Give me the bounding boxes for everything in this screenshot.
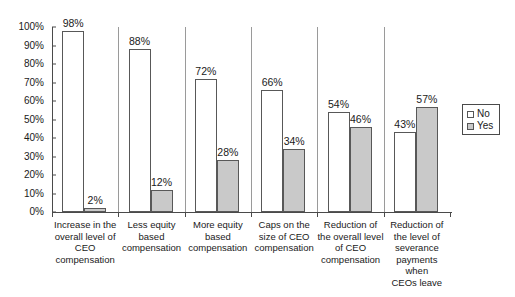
category-label-line: Caps on the xyxy=(251,219,317,231)
data-label-no-2: 72% xyxy=(195,66,216,77)
bar-yes-1 xyxy=(151,190,173,212)
y-tick-label: 80% xyxy=(0,59,44,69)
category-label-line: Less equity xyxy=(118,219,184,231)
y-tick-label: 40% xyxy=(0,133,44,143)
category-label-line: Reduction of xyxy=(317,219,383,231)
y-tick-label: 20% xyxy=(0,170,44,180)
y-tick-label: 10% xyxy=(0,189,44,199)
category-label-line: severance xyxy=(384,242,450,254)
category-label-4: Reduction ofthe overall levelof CEOcompe… xyxy=(317,219,383,265)
bar-yes-4 xyxy=(350,127,372,212)
category-label-5: Reduction ofthe level ofseverancepayment… xyxy=(384,219,450,289)
category-label-1: Less equitybasedcompensation xyxy=(118,219,184,254)
bar-yes-5 xyxy=(416,107,438,212)
x-tick-mark xyxy=(450,212,451,217)
category-label-line: compensation xyxy=(317,254,383,266)
category-label-line: compensation xyxy=(185,242,251,254)
data-label-no-3: 66% xyxy=(262,77,283,88)
category-label-line: Reduction of xyxy=(384,219,450,231)
category-label-2: More equitybasedcompensation xyxy=(185,219,251,254)
bar-no-1 xyxy=(129,49,151,212)
x-tick-mark xyxy=(384,212,385,217)
category-label-line: based xyxy=(185,231,251,243)
data-label-no-0: 98% xyxy=(63,18,84,29)
x-tick-mark xyxy=(317,212,318,217)
group-separator xyxy=(185,27,186,212)
y-tick-label: 60% xyxy=(0,96,44,106)
data-label-yes-5: 57% xyxy=(416,94,437,105)
x-tick-mark xyxy=(185,212,186,217)
bar-yes-0 xyxy=(84,208,106,212)
bar-yes-3 xyxy=(283,149,305,212)
x-tick-mark xyxy=(251,212,252,217)
legend-swatch-icon xyxy=(467,111,474,118)
data-label-no-1: 88% xyxy=(129,36,150,47)
bar-chart: 0%10%20%30%40%50%60%70%80%90%100% 98%2%8… xyxy=(0,0,515,297)
category-label-line: compensation xyxy=(251,242,317,254)
category-label-line: compensation xyxy=(52,254,118,266)
category-label-3: Caps on thesize of CEOcompensation xyxy=(251,219,317,254)
category-label-line: overall level of xyxy=(52,231,118,243)
category-label-line: Increase in the xyxy=(52,219,118,231)
category-label-line: the level of xyxy=(384,231,450,243)
y-tick-label: 70% xyxy=(0,78,44,88)
legend-label: No xyxy=(477,109,490,119)
x-tick-mark xyxy=(118,212,119,217)
bar-no-2 xyxy=(195,79,217,212)
category-label-line: the overall level xyxy=(317,231,383,243)
category-label-line: payments when xyxy=(384,254,450,277)
category-label-line: based xyxy=(118,231,184,243)
data-label-yes-0: 2% xyxy=(88,195,103,206)
y-tick-label: 0% xyxy=(0,207,44,217)
group-separator xyxy=(118,27,119,212)
bar-no-0 xyxy=(62,31,84,212)
bar-yes-2 xyxy=(217,160,239,212)
category-label-line: More equity xyxy=(185,219,251,231)
y-tick-label: 90% xyxy=(0,41,44,51)
plot-area: 98%2%88%12%72%28%66%34%54%46%43%57% xyxy=(52,27,450,212)
group-separator xyxy=(251,27,252,212)
data-label-no-4: 54% xyxy=(328,99,349,110)
group-separator xyxy=(384,27,385,212)
group-separator xyxy=(317,27,318,212)
bar-no-3 xyxy=(261,90,283,212)
category-label-line: size of CEO xyxy=(251,231,317,243)
legend-swatch-icon xyxy=(467,123,474,130)
y-tick-label: 30% xyxy=(0,152,44,162)
x-axis-line xyxy=(52,212,452,213)
data-label-no-5: 43% xyxy=(394,119,415,130)
category-label-0: Increase in theoverall level ofCEOcompen… xyxy=(52,219,118,265)
legend-item-yes: Yes xyxy=(467,120,496,132)
category-label-line: CEOs leave xyxy=(384,277,450,289)
data-label-yes-2: 28% xyxy=(217,147,238,158)
data-label-yes-4: 46% xyxy=(350,114,371,125)
bar-no-4 xyxy=(328,112,350,212)
legend: NoYes xyxy=(462,104,500,135)
data-label-yes-1: 12% xyxy=(151,177,172,188)
category-label-line: of CEO xyxy=(317,242,383,254)
legend-item-no: No xyxy=(467,108,496,120)
category-label-line: CEO xyxy=(52,242,118,254)
category-label-line: compensation xyxy=(118,242,184,254)
y-tick-label: 100% xyxy=(0,22,44,32)
legend-label: Yes xyxy=(477,121,493,131)
bar-no-5 xyxy=(394,132,416,212)
data-label-yes-3: 34% xyxy=(284,136,305,147)
x-tick-mark xyxy=(52,212,53,217)
y-tick-label: 50% xyxy=(0,115,44,125)
